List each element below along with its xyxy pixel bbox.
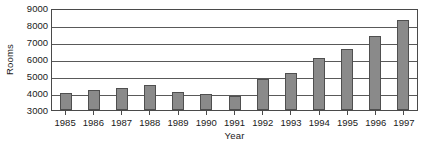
x-axis-tick-label: 1991 [220,116,248,130]
x-axis-tick-mark [347,111,348,115]
bar-slot [80,10,108,110]
bar[interactable] [60,93,72,110]
x-axis-tick-label: 1993 [277,116,305,130]
plot-area [51,9,418,111]
y-axis-title: Rooms [0,0,20,118]
bar-slot [389,10,417,110]
x-tick-slot [51,111,79,115]
bar-slot [277,10,305,110]
bar[interactable] [229,96,241,110]
x-axis-tick-mark [375,111,376,115]
x-axis-tick-label: 1990 [192,116,220,130]
x-axis-tick-label: 1995 [333,116,361,130]
x-axis-tick-mark [234,111,235,115]
bar-slot [305,10,333,110]
bar-slot [192,10,220,110]
x-axis-tick-mark [149,111,150,115]
bar[interactable] [285,73,297,110]
bar[interactable] [116,88,128,110]
y-axis-tick-label: 7000 [18,38,48,48]
bar-slot [52,10,80,110]
bar-slot [136,10,164,110]
x-axis-tick-label: 1987 [107,116,135,130]
x-axis-title: Year [51,130,418,141]
x-axis-tick-mark [178,111,179,115]
bar-chart: Rooms 3000400050006000700080009000 19851… [0,0,428,148]
y-axis-tick-label: 4000 [18,89,48,99]
x-axis-tick-labels: 1985198619871988198919901991199219931994… [51,116,418,130]
y-axis-tick-label: 9000 [18,4,48,14]
y-axis-tick-label: 5000 [18,72,48,82]
x-axis-tick-mark [290,111,291,115]
x-axis-tick-mark [121,111,122,115]
x-axis-tick-mark [319,111,320,115]
y-axis-title-label: Rooms [5,43,16,74]
bar[interactable] [200,94,212,110]
bar-slot [108,10,136,110]
y-axis-tick-label: 6000 [18,55,48,65]
x-axis-tick-label: 1992 [249,116,277,130]
y-axis-tick-label: 3000 [18,106,48,116]
x-tick-slot [333,111,361,115]
bar-slot [249,10,277,110]
bar[interactable] [397,20,409,110]
x-tick-slot [362,111,390,115]
bar-slot [220,10,248,110]
x-axis-tick-marks [51,111,418,115]
x-tick-slot [220,111,248,115]
x-axis-tick-label: 1996 [362,116,390,130]
bar[interactable] [313,58,325,110]
x-tick-slot [305,111,333,115]
x-axis-tick-label: 1994 [305,116,333,130]
bar-slot [361,10,389,110]
bar[interactable] [144,85,156,111]
x-tick-slot [79,111,107,115]
x-axis-tick-mark [65,111,66,115]
x-tick-slot [277,111,305,115]
x-axis-tick-label: 1997 [390,116,418,130]
x-tick-slot [107,111,135,115]
bar[interactable] [341,49,353,110]
y-axis-tick-labels: 3000400050006000700080009000 [18,9,50,111]
bar[interactable] [88,90,100,110]
bar[interactable] [172,92,184,110]
x-axis-tick-mark [93,111,94,115]
x-tick-slot [192,111,220,115]
x-tick-slot [390,111,418,115]
x-axis-tick-mark [403,111,404,115]
x-axis-tick-mark [206,111,207,115]
bar-slot [164,10,192,110]
x-axis-tick-label: 1985 [51,116,79,130]
x-axis-tick-label: 1989 [164,116,192,130]
bars-layer [52,10,417,110]
bar[interactable] [369,36,381,110]
x-tick-slot [136,111,164,115]
x-axis-tick-label: 1988 [136,116,164,130]
y-axis-tick-label: 8000 [18,21,48,31]
x-axis-tick-label: 1986 [79,116,107,130]
x-tick-slot [164,111,192,115]
x-tick-slot [249,111,277,115]
x-axis-tick-mark [262,111,263,115]
bar-slot [333,10,361,110]
bar[interactable] [257,79,269,110]
